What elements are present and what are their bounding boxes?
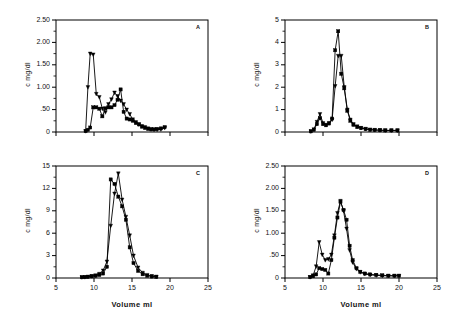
- x-tick-label: 5: [271, 284, 299, 291]
- axis-label-y: c mg/dl: [24, 52, 31, 98]
- y-tick-label: 1: [275, 105, 279, 112]
- y-tick-label: 2.00: [36, 38, 50, 45]
- panel-c: 03691215510152025Volume mlc mg/dlC: [0, 152, 229, 311]
- y-tick-label: 3: [275, 60, 279, 67]
- y-tick-label: 6: [46, 229, 50, 236]
- panel-d: 0.501.001.502.002.50510152025Volume mlc …: [229, 152, 458, 311]
- x-tick-label: 25: [194, 284, 222, 291]
- panel-a: 0.501.001.502.002.50c mg/dlA: [0, 2, 229, 152]
- series-square: [309, 30, 399, 133]
- x-tick-label: 10: [309, 284, 337, 291]
- axis-label-y: c mg/dl: [253, 52, 260, 98]
- x-tick-label: 25: [423, 284, 451, 291]
- y-tick-label: 2.50: [265, 162, 279, 169]
- y-tick-label: 9: [46, 206, 50, 213]
- series-triangle: [80, 172, 158, 279]
- panel-label-c: C: [196, 170, 200, 176]
- axis-label-x: Volume ml: [333, 300, 389, 309]
- y-tick-label: 2.50: [36, 16, 50, 23]
- series-triangle: [309, 54, 399, 133]
- y-tick-label: 5: [275, 16, 279, 23]
- y-tick-label: 1.00: [265, 229, 279, 236]
- x-tick-label: 5: [42, 284, 70, 291]
- y-tick-label: 4: [275, 38, 279, 45]
- panel-b: 012345c mg/dlB: [229, 2, 458, 152]
- x-tick-label: 10: [80, 284, 108, 291]
- y-tick-label: .50: [269, 251, 279, 258]
- x-tick-label: 20: [156, 284, 184, 291]
- axis-label-y: c mg/dl: [253, 198, 260, 244]
- panel-label-a: A: [196, 24, 200, 30]
- y-tick-label: 0: [275, 128, 279, 135]
- plot-area-a: [0, 2, 229, 152]
- y-tick-label: 2: [275, 83, 279, 90]
- y-tick-label: 0: [46, 128, 50, 135]
- axis-label-y: c mg/dl: [24, 198, 31, 244]
- y-tick-label: 0: [46, 274, 50, 281]
- panel-label-b: B: [425, 24, 429, 30]
- y-tick-label: .50: [40, 105, 50, 112]
- x-tick-label: 20: [385, 284, 413, 291]
- y-tick-label: 12: [42, 184, 50, 191]
- figure-root: 0.501.001.502.002.50c mg/dlA012345c mg/d…: [0, 0, 458, 311]
- y-tick-label: 0: [275, 274, 279, 281]
- x-tick-label: 15: [118, 284, 146, 291]
- axis-label-x: Volume ml: [104, 300, 160, 309]
- y-tick-label: 1.00: [36, 83, 50, 90]
- series-triangle: [308, 199, 401, 279]
- y-tick-label: 1.50: [265, 206, 279, 213]
- plot-area-b: [229, 2, 458, 152]
- y-tick-label: 15: [42, 162, 50, 169]
- series-square: [308, 200, 400, 278]
- series-square: [80, 178, 158, 279]
- x-tick-label: 15: [347, 284, 375, 291]
- y-tick-label: 2.00: [265, 184, 279, 191]
- y-tick-label: 1.50: [36, 60, 50, 67]
- series-triangle: [84, 52, 167, 133]
- y-tick-label: 3: [46, 251, 50, 258]
- panel-label-d: D: [425, 170, 429, 176]
